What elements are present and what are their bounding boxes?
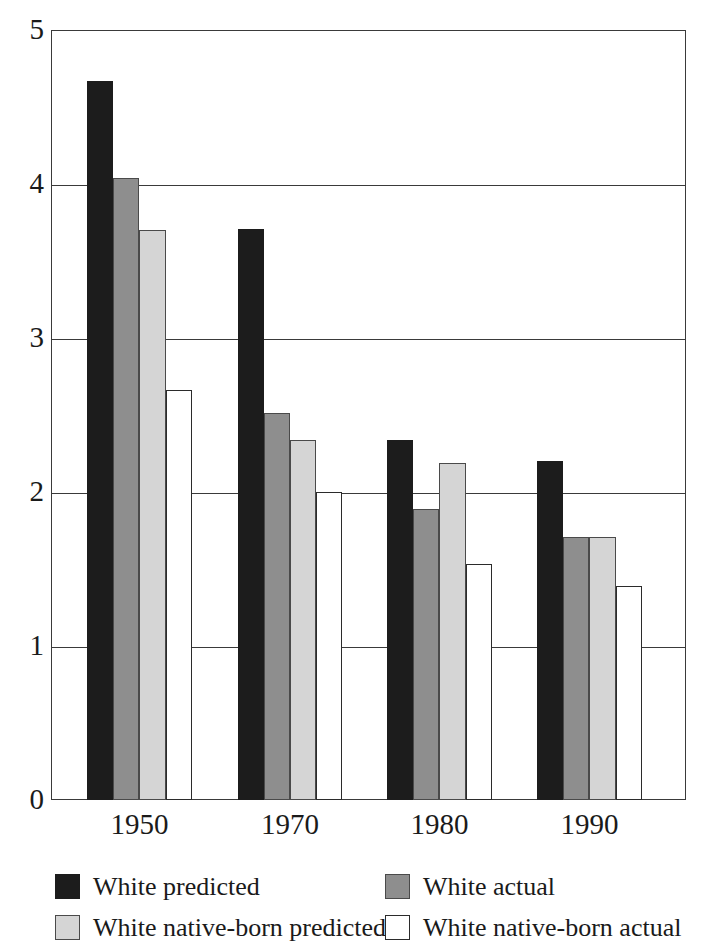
legend-label: White predicted [93, 873, 260, 901]
bar-1990-white-native-born-predicted [589, 537, 615, 800]
y-tick-label-3: 3 [4, 323, 44, 352]
legend-swatch-icon [55, 915, 80, 940]
x-tick-label-1980: 1980 [379, 808, 499, 841]
y-tick-label-1: 1 [4, 631, 44, 660]
bar-1970-white-native-born-actual [316, 492, 342, 800]
bar-1980-white-native-born-predicted [439, 463, 465, 800]
x-tick-label-1990: 1990 [529, 808, 649, 841]
bar-1990-white-native-born-actual [616, 586, 642, 800]
bar-1970-white-predicted [238, 229, 264, 800]
legend-swatch-icon [55, 874, 80, 899]
y-tick-label-2: 2 [4, 477, 44, 506]
legend-label: White actual [423, 873, 555, 901]
bar-1990-white-predicted [537, 461, 563, 800]
bar-1970-white-native-born-predicted [290, 440, 316, 800]
bar-chart: 012345 1950197019801990 White predictedW… [0, 0, 711, 947]
bar-1970-white-actual [264, 413, 290, 800]
bar-1980-white-actual [413, 509, 439, 800]
legend-entry-white-native-born-actual: White native-born actual [385, 914, 695, 942]
y-tick-label-5: 5 [4, 15, 44, 44]
x-tick-label-1950: 1950 [79, 808, 199, 841]
bar-1980-white-native-born-actual [466, 564, 492, 800]
legend-entry-white-actual: White actual [385, 873, 695, 901]
legend-entry-white-predicted: White predicted [55, 873, 385, 901]
bars-layer [51, 30, 686, 800]
bar-1990-white-actual [563, 537, 589, 800]
bar-1950-white-native-born-actual [166, 390, 192, 800]
y-tick-label-0: 0 [4, 785, 44, 814]
legend-label: White native-born actual [423, 914, 681, 942]
legend-swatch-icon [385, 874, 410, 899]
bar-1950-white-predicted [87, 81, 113, 800]
bar-1950-white-native-born-predicted [139, 230, 165, 800]
y-tick-label-4: 4 [4, 169, 44, 198]
x-tick-label-1970: 1970 [230, 808, 350, 841]
legend-swatch-icon [385, 915, 410, 940]
bar-1950-white-actual [113, 178, 139, 800]
legend-entry-white-native-born-predicted: White native-born predicted [55, 914, 385, 942]
bar-1980-white-predicted [387, 440, 413, 800]
legend-label: White native-born predicted [93, 914, 386, 942]
chart-legend: White predictedWhite actualWhite native-… [55, 866, 695, 947]
